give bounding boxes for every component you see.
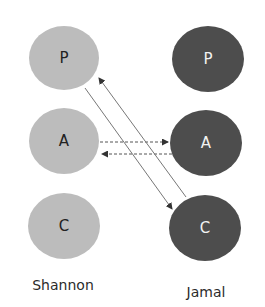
jamal-name-label: Jamal bbox=[187, 284, 226, 300]
shannon-parent-circle: P bbox=[29, 26, 99, 90]
jamal-child-label: C bbox=[200, 219, 210, 237]
jamal-parent-label: P bbox=[203, 50, 212, 68]
jamal-parent-circle: P bbox=[172, 26, 244, 92]
shannon-child-circle: C bbox=[28, 193, 100, 259]
shannon-child-label: C bbox=[59, 217, 69, 235]
shannon-adult-circle: A bbox=[29, 108, 99, 174]
shannon-name-label: Shannon bbox=[32, 277, 94, 293]
jamal-child-circle: C bbox=[169, 195, 241, 261]
shannon-adult-label: A bbox=[59, 132, 69, 150]
shannon-parent-label: P bbox=[59, 49, 68, 67]
jamal-adult-circle: A bbox=[170, 110, 242, 176]
jamal-adult-label: A bbox=[201, 134, 211, 152]
